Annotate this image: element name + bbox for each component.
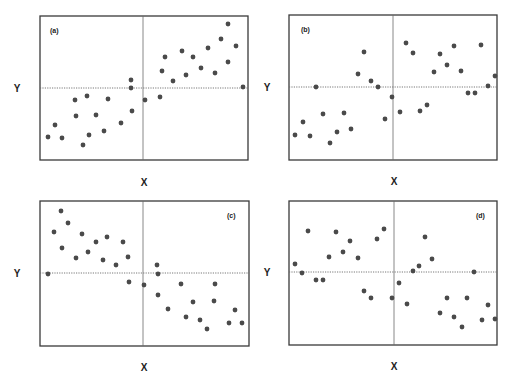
data-point bbox=[328, 141, 333, 146]
data-point bbox=[59, 209, 64, 214]
data-point bbox=[80, 232, 85, 237]
data-point bbox=[362, 50, 367, 55]
data-point bbox=[114, 263, 119, 268]
data-point bbox=[219, 37, 224, 42]
data-point bbox=[102, 129, 107, 134]
data-point bbox=[191, 55, 196, 60]
data-point bbox=[445, 296, 450, 301]
data-point bbox=[212, 299, 217, 304]
x-axis-label: X bbox=[141, 362, 148, 373]
data-point bbox=[493, 74, 498, 79]
data-point bbox=[417, 264, 422, 269]
data-point bbox=[199, 66, 204, 71]
data-point bbox=[241, 85, 246, 90]
data-point bbox=[321, 112, 326, 117]
data-point bbox=[382, 227, 387, 232]
data-point bbox=[411, 51, 416, 56]
data-point bbox=[184, 315, 189, 320]
data-point bbox=[127, 280, 132, 285]
data-point bbox=[493, 317, 498, 322]
data-point bbox=[171, 79, 176, 84]
data-point bbox=[52, 230, 57, 235]
data-point bbox=[81, 143, 86, 148]
data-point bbox=[300, 271, 305, 276]
data-point bbox=[155, 263, 160, 268]
x-axis-label: X bbox=[391, 176, 398, 187]
scatter-figure: (a)XY(b)XY(c)XY(d)XY bbox=[0, 0, 512, 383]
data-point bbox=[94, 113, 99, 118]
data-point bbox=[479, 43, 484, 48]
data-point bbox=[327, 255, 332, 260]
data-point bbox=[418, 109, 423, 114]
data-point bbox=[432, 70, 437, 75]
data-point bbox=[314, 85, 319, 90]
data-point bbox=[213, 282, 218, 287]
data-point bbox=[390, 95, 395, 100]
data-point bbox=[398, 110, 403, 115]
data-point bbox=[233, 308, 238, 313]
data-point bbox=[226, 60, 231, 65]
data-point bbox=[179, 282, 184, 287]
data-point bbox=[486, 303, 491, 308]
data-point bbox=[321, 278, 326, 283]
data-point bbox=[163, 55, 168, 60]
data-point bbox=[341, 250, 346, 255]
data-point bbox=[74, 114, 79, 119]
data-point bbox=[53, 123, 58, 128]
plot-frame bbox=[289, 201, 497, 345]
data-point bbox=[156, 293, 161, 298]
data-point bbox=[473, 91, 478, 96]
data-point bbox=[466, 91, 471, 96]
plot-frame bbox=[40, 201, 249, 346]
data-point bbox=[301, 120, 306, 125]
data-point bbox=[369, 79, 374, 84]
data-point bbox=[74, 256, 79, 261]
data-point bbox=[460, 325, 465, 330]
data-point bbox=[465, 296, 470, 301]
data-point bbox=[376, 85, 381, 90]
data-point bbox=[85, 94, 90, 99]
data-point bbox=[126, 255, 131, 260]
panel-label: (a) bbox=[50, 27, 59, 35]
panel-d: (d)XY bbox=[264, 201, 498, 372]
data-point bbox=[86, 250, 91, 255]
data-point bbox=[227, 321, 232, 326]
data-point bbox=[191, 300, 196, 305]
data-point bbox=[356, 72, 361, 77]
panel-label: (c) bbox=[227, 212, 236, 220]
data-point bbox=[452, 44, 457, 49]
data-point bbox=[430, 257, 435, 262]
data-point bbox=[46, 272, 51, 277]
panel-label: (d) bbox=[476, 212, 485, 220]
data-point bbox=[184, 73, 189, 78]
data-point bbox=[334, 230, 339, 235]
panel-label: (b) bbox=[301, 26, 310, 34]
data-point bbox=[348, 239, 353, 244]
data-point bbox=[308, 134, 313, 139]
y-axis-label: Y bbox=[264, 267, 271, 278]
data-point bbox=[349, 127, 354, 132]
data-point bbox=[375, 237, 380, 242]
data-point bbox=[438, 52, 443, 57]
data-point bbox=[472, 270, 477, 275]
data-point bbox=[205, 327, 210, 332]
data-point bbox=[130, 109, 135, 114]
data-point bbox=[383, 117, 388, 122]
data-point bbox=[342, 111, 347, 116]
data-point bbox=[213, 71, 218, 76]
data-point bbox=[94, 240, 99, 245]
data-point bbox=[405, 302, 410, 307]
data-point bbox=[411, 269, 416, 274]
data-point bbox=[160, 69, 165, 74]
y-axis-label: Y bbox=[14, 83, 21, 94]
data-point bbox=[60, 246, 65, 251]
data-point bbox=[438, 311, 443, 316]
x-axis-label: X bbox=[391, 361, 398, 372]
data-point bbox=[60, 136, 65, 141]
data-point bbox=[240, 321, 245, 326]
data-point bbox=[156, 272, 161, 277]
data-point bbox=[129, 86, 134, 91]
data-point bbox=[121, 240, 126, 245]
x-axis-label: X bbox=[141, 177, 148, 188]
y-axis-label: Y bbox=[14, 268, 21, 279]
